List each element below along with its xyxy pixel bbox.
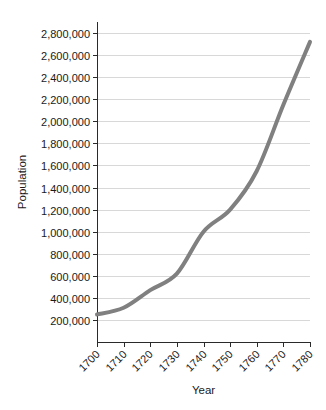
x-tick-label: 1700 <box>76 348 102 374</box>
y-tick-label: 400,000 <box>50 293 90 305</box>
y-tick-label: 1,600,000 <box>41 160 90 172</box>
y-tick-label: 800,000 <box>50 249 90 261</box>
x-tick-label: 1770 <box>262 348 288 374</box>
population-series-line <box>97 42 310 315</box>
y-axis-title: Population <box>16 155 28 209</box>
y-tick-label: 200,000 <box>50 315 90 327</box>
y-tick-label: 600,000 <box>50 271 90 283</box>
y-tick-label: 1,000,000 <box>41 227 90 239</box>
y-tick-label: 2,000,000 <box>41 116 90 128</box>
gridlines-group <box>97 34 310 321</box>
x-tick-label: 1780 <box>289 348 315 374</box>
y-tick-labels-group: 200,000400,000600,000800,0001,000,0001,2… <box>41 28 90 327</box>
y-tick-marks-group <box>93 34 97 321</box>
y-tick-label: 2,600,000 <box>41 50 90 62</box>
population-line-chart: 200,000400,000600,000800,0001,000,0001,2… <box>0 0 326 410</box>
x-axis-title: Year <box>192 384 215 396</box>
y-tick-label: 2,400,000 <box>41 72 90 84</box>
x-tick-label: 1760 <box>236 348 262 374</box>
x-tick-label: 1740 <box>183 348 209 374</box>
y-tick-label: 1,800,000 <box>41 138 90 150</box>
x-tick-label: 1710 <box>103 348 129 374</box>
chart-canvas: 200,000400,000600,000800,0001,000,0001,2… <box>0 0 326 410</box>
x-tick-label: 1750 <box>209 348 235 374</box>
y-tick-label: 1,200,000 <box>41 205 90 217</box>
x-tick-label: 1730 <box>156 348 182 374</box>
x-tick-label: 1720 <box>129 348 155 374</box>
y-tick-label: 2,200,000 <box>41 94 90 106</box>
y-tick-label: 1,400,000 <box>41 183 90 195</box>
y-tick-label: 2,800,000 <box>41 28 90 40</box>
x-tick-labels-group: 170017101720173017401750176017701780 <box>76 348 315 374</box>
